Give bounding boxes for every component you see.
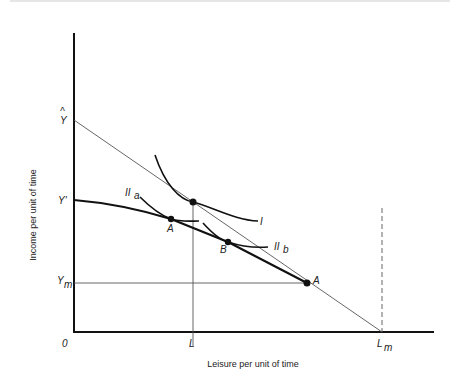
labor-leisure-diagram: Y ^ Y' Y m 0 L L m I II a II b A B A Lei… bbox=[0, 0, 461, 390]
origin-label: 0 bbox=[62, 338, 68, 349]
curve-iib-label: II bbox=[274, 241, 280, 252]
budget-line bbox=[74, 120, 382, 332]
lm-subscript: m bbox=[384, 342, 392, 353]
point-a-upper-label: A bbox=[166, 223, 174, 234]
point-a-upper bbox=[168, 216, 174, 222]
x-axis-title: Leisure per unit of time bbox=[207, 359, 299, 369]
y-axis-title: Income per unit of time bbox=[28, 169, 38, 261]
curve-i-label: I bbox=[260, 216, 263, 227]
y-prime-label: Y' bbox=[58, 195, 68, 206]
point-a-lower-label: A bbox=[312, 275, 320, 286]
point-b-label: B bbox=[220, 244, 227, 255]
welfare-budget-line bbox=[74, 200, 307, 283]
tangency-point bbox=[190, 199, 197, 206]
point-a-lower bbox=[304, 280, 311, 287]
curve-iib-subscript: b bbox=[283, 244, 289, 255]
curve-iia-label: II bbox=[125, 187, 131, 198]
lm-label: L bbox=[377, 338, 383, 349]
y-hat-mark: ^ bbox=[60, 106, 65, 117]
l-label: L bbox=[189, 338, 195, 349]
curve-iia-subscript: a bbox=[134, 190, 140, 201]
y-m-subscript: m bbox=[64, 279, 72, 290]
